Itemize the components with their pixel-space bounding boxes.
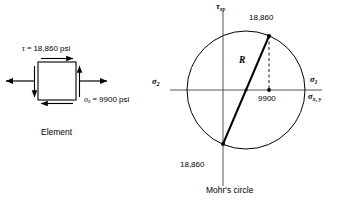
bottom-stress-value-label: 18,860 (180, 161, 204, 169)
center-point-marker (267, 88, 271, 92)
sigma-2-axis-label: σ2 (152, 77, 160, 87)
tau-axis-label: τxy (216, 2, 226, 12)
sigma-xy-axis-label: σx, y (308, 92, 321, 102)
sigma-1-axis-label: σ1 (310, 75, 318, 85)
top-stress-value-label: 18,860 (249, 14, 273, 22)
figure-canvas: τ = 18,860 psi σx = 9900 psi Element τxy… (0, 0, 337, 201)
center-value-label: 9900 (258, 95, 276, 103)
mohr-circle-diagram (0, 0, 337, 201)
top-stress-point-marker (267, 34, 271, 38)
mohr-circle-caption: Mohr's circle (206, 186, 253, 195)
bottom-stress-point-marker (221, 142, 225, 146)
diameter-axis-intersection-marker (244, 88, 247, 91)
radius-label: R (239, 56, 245, 66)
